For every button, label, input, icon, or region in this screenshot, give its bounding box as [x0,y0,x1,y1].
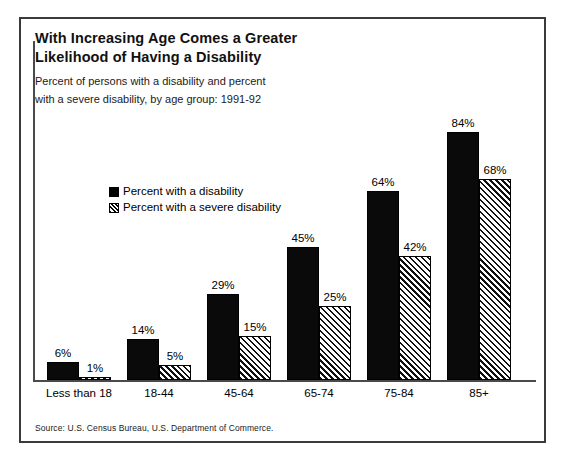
chart-figure: With Increasing Age Comes a Greater Like… [19,17,546,443]
bar: 45% [287,247,319,380]
bar-group: 84%68% [447,41,511,380]
bar: 25% [319,306,351,380]
bar-group: 29%15% [207,41,271,380]
bar: 14% [127,339,159,380]
bar-group: 6%1% [47,41,111,380]
bar-group: 45%25% [287,41,351,380]
plot-area: 6%1%14%5%29%15%45%25%64%42%84%68% Less t… [33,41,534,403]
bar-value-label: 45% [291,232,314,245]
bar-value-label: 84% [451,117,474,130]
x-axis-line [33,380,536,382]
bar-value-label: 15% [243,321,266,334]
bar: 15% [239,336,271,380]
bar: 64% [367,191,399,380]
bar-group: 14%5% [127,41,191,380]
bar: 29% [207,294,239,380]
bar: 5% [159,365,191,380]
bar-value-label: 29% [211,279,234,292]
bar-value-label: 1% [87,362,104,375]
source-note: Source: U.S. Census Bureau, U.S. Departm… [35,423,274,433]
bars-container: 6%1%14%5%29%15%45%25%64%42%84%68% [35,41,534,380]
bar-value-label: 5% [167,350,184,363]
bar-value-label: 64% [371,176,394,189]
bar: 1% [79,377,111,380]
bar: 6% [47,362,79,380]
bar-value-label: 42% [403,241,426,254]
bar-group: 64%42% [367,41,431,380]
x-axis-labels: Less than 1818-4445-6465-7475-8485+ [35,386,534,404]
bar-value-label: 25% [323,291,346,304]
bar-value-label: 6% [55,347,72,360]
bar-value-label: 68% [483,164,506,177]
bar-value-label: 14% [131,324,154,337]
bar: 68% [479,179,511,380]
bar: 84% [447,132,479,380]
x-axis-label: 85+ [429,386,529,400]
bar: 42% [399,256,431,380]
